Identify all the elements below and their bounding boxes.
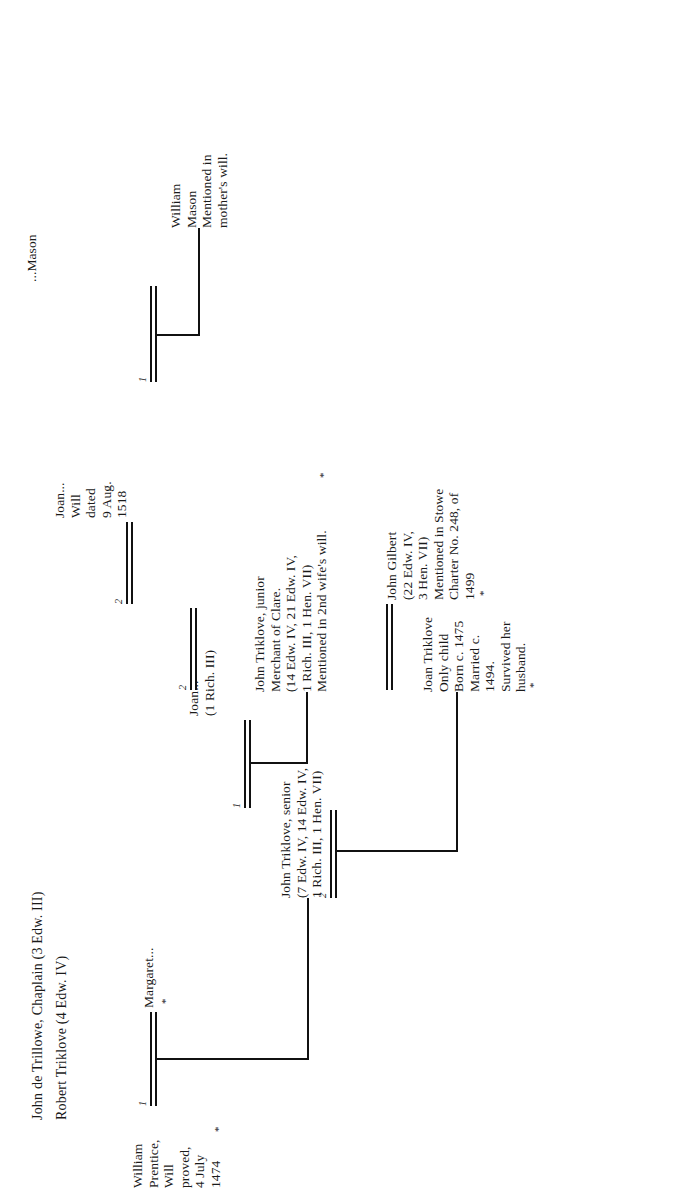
asterisk-john-gilbert: * xyxy=(478,591,489,597)
sibling-line-william-mason xyxy=(198,228,200,336)
descent-line-prentice-to-senior xyxy=(157,1058,309,1060)
descent-line-senior-to-junior xyxy=(250,762,308,764)
node-margaret: Margaret... xyxy=(141,916,157,1008)
asterisk-joan-triklove: * xyxy=(528,683,539,689)
marriage-number-senior-second: 2 xyxy=(318,893,328,898)
marriage-number-junior-second-a: 2 xyxy=(178,685,188,690)
pedigree-chart: John de Trillowe, Chaplain (3 Edw. III) … xyxy=(0,0,674,1204)
marriage-number-senior-first: 1 xyxy=(232,803,242,808)
node-mason-spouse: ...Mason xyxy=(24,172,40,282)
node-joan-second-wife: Joan... Will dated 9 Aug. 1518 xyxy=(52,422,130,518)
node-william-prentice: William Prentice, Will proved, 4 July 14… xyxy=(130,1108,223,1188)
chart-title-line-2: Robert Triklove (4 Edw. IV) xyxy=(52,956,72,1120)
marriage-number-mason: 1 xyxy=(138,377,148,382)
sibling-line-junior xyxy=(306,692,308,764)
marriage-number-prentice-margaret: 1 xyxy=(138,1101,148,1106)
asterisk-prentice: * xyxy=(213,1127,224,1133)
node-william-mason: William Mason Mentioned in mother's will… xyxy=(168,98,230,228)
node-john-triklove-senior: John Triklove, senior (7 Edw. IV, 14 Edw… xyxy=(278,690,325,898)
rotated-page-stage: John de Trillowe, Chaplain (3 Edw. III) … xyxy=(0,0,674,1204)
asterisk-margaret: * xyxy=(160,999,171,1005)
sibling-line-senior xyxy=(307,898,309,1060)
chart-title-line-1: John de Trillowe, Chaplain (3 Edw. III) xyxy=(28,891,48,1120)
sibling-line-joan-triklove xyxy=(456,692,458,852)
descent-line-junior-to-joan xyxy=(336,850,458,852)
descent-line-mason xyxy=(156,334,200,336)
asterisk-junior-note: * xyxy=(318,473,329,479)
node-john-gilbert: John Gilbert (22 Edw. IV, 3 Hen. VII) Me… xyxy=(384,380,477,600)
node-john-triklove-junior: John Triklove, junior Merchant of Clare.… xyxy=(252,456,330,692)
marriage-number-junior-second-b: 2 xyxy=(114,599,124,604)
